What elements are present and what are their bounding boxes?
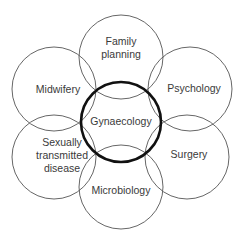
psychology-label: Psychology: [167, 82, 221, 94]
family-planning-label: Family: [106, 35, 138, 47]
microbiology-label: Microbiology: [92, 184, 152, 196]
sexually-transmitted-disease-label: transmitted: [36, 149, 88, 161]
sexually-transmitted-disease-label: Sexually: [42, 136, 82, 148]
midwifery-label: Midwifery: [36, 83, 81, 95]
surgery-label: Surgery: [171, 148, 209, 160]
gynaecology-label: Gynaecology: [90, 115, 152, 127]
sexually-transmitted-disease-label: disease: [44, 162, 80, 174]
venn-diagram: FamilyplanningPsychologySurgeryMicrobiol…: [0, 0, 242, 243]
family-planning-label: planning: [101, 48, 141, 60]
